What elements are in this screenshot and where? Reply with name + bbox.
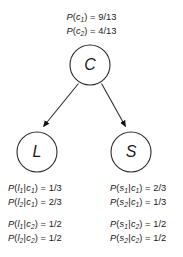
- conditional-line: P(s1|c2) = 1/2: [110, 218, 166, 232]
- condition-symbol: c: [131, 197, 136, 207]
- probability-function-symbol: P: [110, 233, 116, 243]
- condition-subscript: 1: [31, 201, 35, 208]
- diagram-canvas: P(c1) = 9/13 P(c2) = 4/13 C L S P(l1|c1)…: [0, 0, 183, 257]
- condition-subscript: 2: [136, 223, 140, 230]
- conditional-block-s-given-c1: P(s1|c1) = 2/3 P(s2|c1) = 1/3: [110, 182, 166, 209]
- probability-function-symbol: P: [8, 183, 14, 193]
- conditional-block-l-given-c2: P(l1|c2) = 1/2 P(l2|c2) = 1/2: [8, 218, 62, 245]
- condition-subscript: 2: [31, 237, 35, 244]
- conditional-line: P(s1|c1) = 2/3: [110, 182, 166, 196]
- conditional-value: 1/2: [153, 233, 166, 243]
- condition-symbol: c: [131, 233, 136, 243]
- edge-c-to-s: [102, 84, 126, 127]
- probability-function-symbol: P: [110, 197, 116, 207]
- condition-subscript: 2: [31, 223, 35, 230]
- conditional-value: 1/2: [153, 219, 166, 229]
- variable-subscript: 1: [20, 187, 24, 194]
- node-label-s: S: [110, 131, 152, 173]
- node-label-c: C: [69, 44, 111, 86]
- condition-subscript: 1: [136, 201, 140, 208]
- conditional-value: 1/3: [153, 197, 166, 207]
- condition-subscript: 2: [136, 237, 140, 244]
- probability-function-symbol: P: [8, 219, 14, 229]
- conditional-value: 1/2: [49, 219, 62, 229]
- edge-c-to-l: [44, 84, 79, 127]
- variable-subscript: 1: [20, 223, 24, 230]
- conditional-value: 2/3: [153, 183, 166, 193]
- variable-subscript: 1: [124, 223, 128, 230]
- conditional-line: P(l2|c1) = 2/3: [8, 196, 62, 210]
- variable-subscript: 2: [20, 237, 24, 244]
- variable-subscript: 2: [124, 201, 128, 208]
- conditional-line: P(l1|c2) = 1/2: [8, 218, 62, 232]
- node-label-l: L: [16, 131, 58, 173]
- conditional-line: P(s2|c2) = 1/2: [110, 232, 166, 246]
- condition-subscript: 1: [31, 187, 35, 194]
- conditional-line: P(s2|c1) = 1/3: [110, 196, 166, 210]
- variable-subscript: 1: [124, 187, 128, 194]
- variable-subscript: 2: [20, 201, 24, 208]
- conditional-block-l-given-c1: P(l1|c1) = 1/3 P(l2|c1) = 2/3: [8, 182, 62, 209]
- conditional-line: P(l2|c2) = 1/2: [8, 232, 62, 246]
- probability-function-symbol: P: [8, 197, 14, 207]
- conditional-line: P(l1|c1) = 1/3: [8, 182, 62, 196]
- conditional-value: 1/3: [49, 183, 62, 193]
- condition-symbol: c: [131, 183, 136, 193]
- variable-subscript: 2: [124, 237, 128, 244]
- condition-symbol: c: [131, 219, 136, 229]
- probability-function-symbol: P: [110, 219, 116, 229]
- condition-subscript: 1: [136, 187, 140, 194]
- conditional-value: 2/3: [49, 197, 62, 207]
- probability-function-symbol: P: [110, 183, 116, 193]
- conditional-value: 1/2: [49, 233, 62, 243]
- conditional-block-s-given-c2: P(s1|c2) = 1/2 P(s2|c2) = 1/2: [110, 218, 166, 245]
- probability-function-symbol: P: [8, 233, 14, 243]
